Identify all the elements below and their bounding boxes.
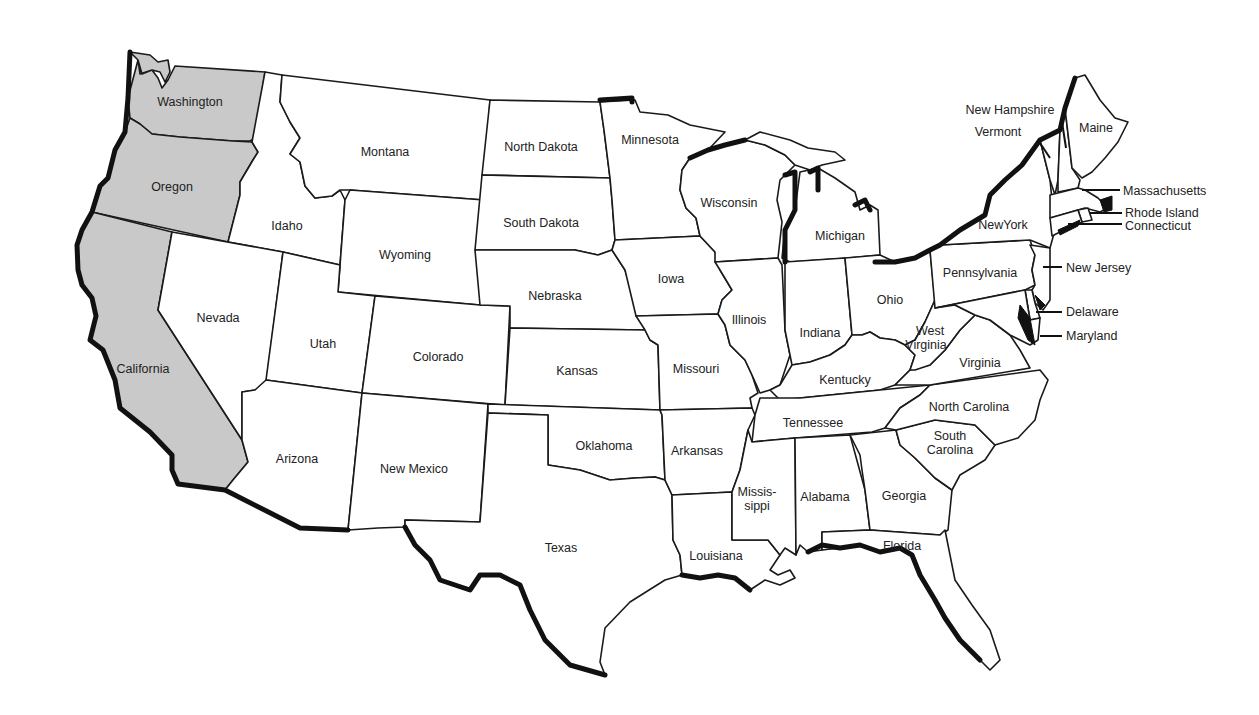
label-texas: Texas [545, 541, 578, 555]
label-vermont: Vermont [975, 125, 1022, 139]
label-delaware: Delaware [1066, 305, 1119, 319]
label-kentucky: Kentucky [819, 373, 871, 387]
label-north-carolina: North Carolina [929, 400, 1010, 414]
label-florida: Florida [883, 539, 921, 553]
label-new-mexico: New Mexico [380, 462, 448, 476]
label-colorado: Colorado [413, 350, 464, 364]
label-washington: Washington [157, 95, 223, 109]
label-west-virginia-2: Virginia [905, 338, 947, 352]
label-indiana: Indiana [799, 326, 840, 340]
label-illinois: Illinois [732, 313, 767, 327]
label-oklahoma: Oklahoma [576, 439, 633, 453]
state-south-dakota[interactable] [475, 175, 615, 255]
label-utah: Utah [310, 337, 336, 351]
label-virginia: Virginia [959, 356, 1001, 370]
label-arkansas: Arkansas [671, 444, 723, 458]
label-rhode-island: Rhode Island [1125, 206, 1199, 220]
label-south-carolina-1: South [934, 429, 967, 443]
label-michigan: Michigan [815, 229, 865, 243]
label-alabama: Alabama [800, 490, 849, 504]
label-ohio: Ohio [877, 293, 903, 307]
label-new-hampshire: New Hampshire [966, 103, 1055, 117]
label-west-virginia-1: West [916, 324, 945, 338]
label-louisiana: Louisiana [689, 549, 743, 563]
label-north-dakota: North Dakota [504, 140, 578, 154]
label-arizona: Arizona [276, 452, 318, 466]
label-new-york: NewYork [978, 218, 1028, 232]
state-montana[interactable] [280, 75, 490, 200]
label-montana: Montana [361, 145, 410, 159]
state-north-dakota[interactable] [482, 100, 610, 178]
label-oregon: Oregon [151, 180, 193, 194]
label-connecticut: Connecticut [1125, 219, 1192, 233]
label-nebraska: Nebraska [528, 289, 582, 303]
label-pennsylvania: Pennsylvania [943, 266, 1017, 280]
label-georgia: Georgia [882, 489, 927, 503]
label-nevada: Nevada [196, 311, 239, 325]
us-states-map: Washington Oregon California Idaho Nevad… [0, 0, 1259, 715]
label-iowa: Iowa [658, 272, 684, 286]
label-wisconsin: Wisconsin [701, 196, 758, 210]
label-new-jersey: New Jersey [1066, 261, 1132, 275]
label-maine: Maine [1079, 121, 1113, 135]
label-south-dakota: South Dakota [503, 216, 579, 230]
label-tennessee: Tennessee [783, 416, 844, 430]
label-south-carolina-2: Carolina [927, 443, 974, 457]
label-missouri: Missouri [673, 362, 720, 376]
label-mississippi-2: sippi [744, 499, 770, 513]
label-california: California [117, 362, 170, 376]
label-massachusetts: Massachusetts [1123, 184, 1206, 198]
label-minnesota: Minnesota [621, 133, 679, 147]
label-wyoming: Wyoming [379, 248, 431, 262]
label-maryland: Maryland [1066, 329, 1117, 343]
label-mississippi-1: Missis- [738, 485, 777, 499]
label-idaho: Idaho [271, 219, 302, 233]
label-kansas: Kansas [556, 364, 598, 378]
